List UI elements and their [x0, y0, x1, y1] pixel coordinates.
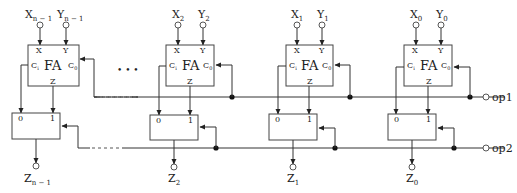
y-input-label: Y0 — [435, 8, 448, 23]
x-input-pin[interactable] — [294, 22, 300, 28]
svg-text:0: 0 — [394, 115, 399, 124]
fa-label: FA — [182, 58, 200, 73]
svg-text:1: 1 — [307, 115, 312, 124]
z-output-pin[interactable] — [290, 164, 296, 170]
svg-text:Y: Y — [318, 46, 325, 55]
svg-text:0: 0 — [156, 116, 161, 125]
x-input-pin[interactable] — [37, 22, 43, 28]
stage-n-1: Xn − 1 Yn − 1 X Y Ci FA C0 Z 0 1 Zn − 1 — [12, 8, 84, 187]
svg-text:Z: Z — [50, 77, 56, 86]
z-output-pin[interactable] — [33, 163, 39, 169]
stages-ellipsis: • • • — [117, 65, 139, 75]
svg-text:Y: Y — [437, 46, 444, 55]
y-input-label: Yn − 1 — [56, 8, 84, 23]
fa-label: FA — [44, 58, 62, 73]
z-output-pin[interactable] — [171, 164, 177, 170]
z-output-label: Z1 — [287, 172, 299, 187]
adder-subtractor-circuit-diagram: op1 op2 • • • Xn − 1 Yn − 1 X Y Ci FA C0… — [0, 0, 517, 193]
x-input-pin[interactable] — [175, 22, 181, 28]
svg-text:Z: Z — [426, 77, 432, 86]
svg-text:1: 1 — [426, 115, 431, 124]
svg-text:X: X — [174, 46, 180, 55]
op1-input-pin[interactable] — [483, 94, 489, 100]
z-output-label: Zn − 1 — [24, 172, 51, 187]
svg-text:Y: Y — [62, 46, 69, 55]
svg-text:1: 1 — [50, 114, 55, 123]
svg-text:X: X — [294, 46, 300, 55]
fa-label: FA — [420, 58, 438, 73]
y-input-pin[interactable] — [319, 22, 325, 28]
x-input-label: Xn − 1 — [25, 8, 52, 23]
svg-text:1: 1 — [188, 116, 193, 125]
svg-text:0: 0 — [18, 114, 23, 123]
y-input-pin[interactable] — [200, 22, 206, 28]
x-input-pin[interactable] — [413, 22, 419, 28]
y-input-pin[interactable] — [438, 22, 444, 28]
fa-label: FA — [301, 58, 319, 73]
y-input-label: Y1 — [316, 8, 329, 23]
z-output-label: Z2 — [168, 172, 180, 187]
op2-input-pin[interactable] — [483, 145, 489, 151]
z-output-label: Z0 — [406, 172, 418, 187]
x-input-label: X0 — [410, 8, 422, 23]
op1-label: op1 — [492, 91, 513, 104]
y-input-label: Y2 — [197, 8, 210, 23]
svg-text:Y: Y — [199, 46, 206, 55]
svg-text:X: X — [36, 46, 42, 55]
op2-label: op2 — [492, 142, 513, 155]
z-output-pin[interactable] — [409, 164, 415, 170]
x-input-label: X2 — [172, 8, 184, 23]
y-input-pin[interactable] — [63, 22, 69, 28]
x-input-label: X1 — [291, 8, 303, 23]
svg-text:Z: Z — [187, 77, 193, 86]
svg-text:0: 0 — [275, 115, 280, 124]
svg-text:Z: Z — [307, 77, 313, 86]
svg-text:X: X — [412, 46, 418, 55]
